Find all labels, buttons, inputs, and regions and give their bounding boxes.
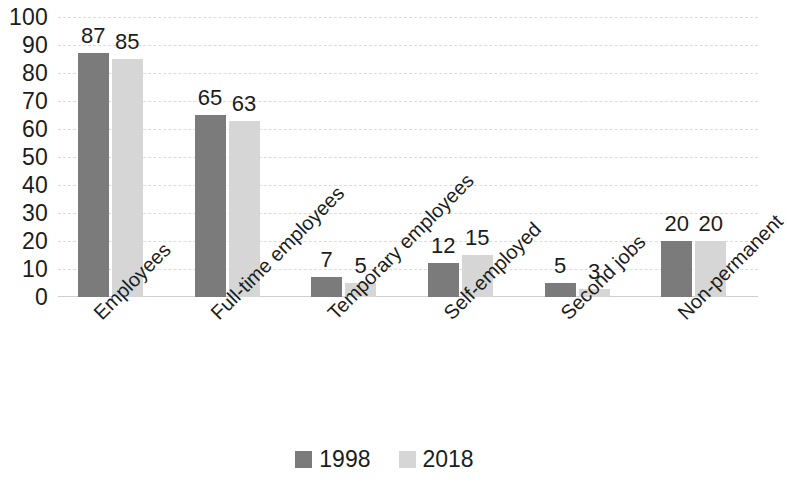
bar[interactable]: [78, 53, 109, 297]
gridline: [58, 45, 758, 46]
bar[interactable]: [195, 115, 226, 297]
legend-swatch-icon-2018: [399, 451, 416, 468]
gridline: [58, 185, 758, 186]
bar[interactable]: [661, 241, 692, 297]
bar-value-label: 20: [689, 213, 732, 235]
gridline: [58, 129, 758, 130]
bar-group: 6563: [195, 17, 260, 297]
bar-group: 75: [311, 17, 376, 297]
bar-value-label: 85: [106, 31, 149, 53]
y-tick-label: 20: [22, 230, 48, 253]
gridline: [58, 269, 758, 270]
y-tick-label: 90: [22, 34, 48, 57]
legend-label-1998: 1998: [319, 448, 370, 471]
y-tick-label: 80: [22, 62, 48, 85]
y-tick-label: 60: [22, 118, 48, 141]
bar-group: 8785: [78, 17, 143, 297]
bar-group: 1215: [428, 17, 493, 297]
gridline: [58, 213, 758, 214]
bar-group: 2020: [661, 17, 726, 297]
y-tick-label: 100: [9, 6, 48, 29]
legend-item-2018[interactable]: 2018: [399, 448, 474, 471]
chart-legend: 1998 2018: [0, 448, 769, 471]
y-tick-label: 10: [22, 258, 48, 281]
y-tick-label: 0: [35, 286, 48, 309]
gridline: [58, 157, 758, 158]
y-tick-label: 50: [22, 146, 48, 169]
legend-swatch-icon-1998: [295, 451, 312, 468]
x-axis: EmployeesFull-time employeesTemporary em…: [58, 297, 758, 437]
gridline: [58, 73, 758, 74]
gridline: [58, 101, 758, 102]
gridline: [58, 17, 758, 18]
y-tick-label: 70: [22, 90, 48, 113]
bar-value-label: 15: [456, 227, 499, 249]
legend-label-2018: 2018: [423, 448, 474, 471]
legend-item-1998[interactable]: 1998: [295, 448, 370, 471]
bar-group: 53: [545, 17, 610, 297]
y-tick-label: 30: [22, 202, 48, 225]
y-axis: 1009080706050403020100: [0, 0, 58, 482]
bar-value-label: 63: [223, 93, 266, 115]
y-tick-label: 40: [22, 174, 48, 197]
